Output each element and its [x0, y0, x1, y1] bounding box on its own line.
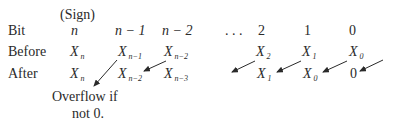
arrow-icon — [144, 61, 166, 71]
arrow-icon — [94, 60, 117, 86]
arrow-icon — [232, 61, 255, 72]
arrow-icon — [323, 61, 347, 72]
shift-arrows — [0, 0, 405, 134]
arrow-icon — [360, 60, 383, 71]
arrow-icon — [277, 61, 301, 72]
